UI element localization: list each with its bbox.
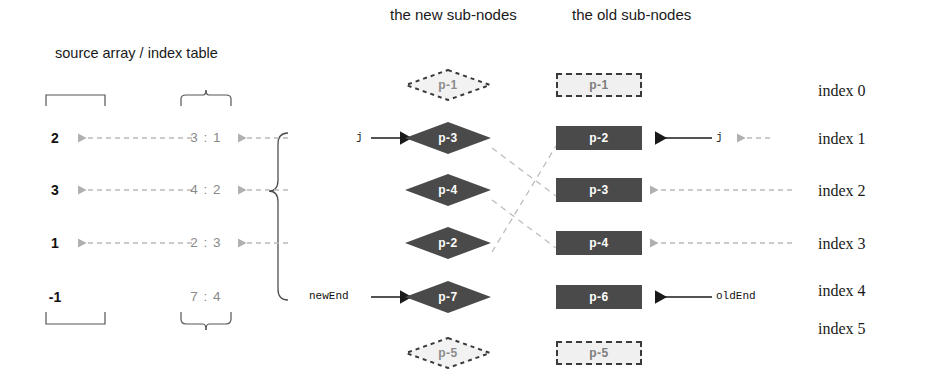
- source-array-value: 2: [35, 130, 75, 146]
- diamond-shape: [405, 281, 491, 313]
- index-table-entry: 4 : 2: [171, 182, 241, 197]
- old-node-p1[interactable]: p-1: [556, 73, 642, 97]
- index-group-brace: [269, 133, 288, 300]
- index-label-3: index 3: [818, 235, 866, 253]
- old-node-p5[interactable]: p-5: [556, 341, 642, 365]
- new-node-p2[interactable]: p-2: [405, 227, 491, 259]
- heading-source-index-table: source array / index table: [55, 45, 218, 61]
- old-node-p2[interactable]: p-2: [556, 126, 642, 150]
- pointer-label-new-j: j: [356, 131, 363, 143]
- index-table-brace-bottom: [181, 312, 231, 330]
- source-array-bracket: [46, 95, 105, 106]
- pointer-label-new-end: newEnd: [309, 290, 349, 302]
- heading-new-sub-nodes: the new sub-nodes: [390, 6, 517, 23]
- new-node-p7[interactable]: p-7: [405, 281, 491, 313]
- old-node-label: p-3: [556, 178, 642, 202]
- new-node-p4[interactable]: p-4: [405, 174, 491, 206]
- old-node-label: p-2: [556, 126, 642, 150]
- diamond-shape: [405, 122, 491, 154]
- diamond-shape: [405, 174, 491, 206]
- index-label-1: index 1: [818, 130, 866, 148]
- node-mapping-links: [492, 146, 556, 252]
- index-table-entry: 7 : 4: [171, 289, 241, 304]
- old-node-p3[interactable]: p-3: [556, 178, 642, 202]
- old-node-label: p-5: [558, 343, 640, 363]
- index-label-4: index 4: [818, 282, 866, 300]
- source-array-value: 1: [35, 235, 75, 251]
- ghost-diamond-outline: [405, 337, 491, 369]
- old-node-p4[interactable]: p-4: [556, 231, 642, 255]
- index-table-entry: 2 : 3: [171, 235, 241, 250]
- diamond-shape: [405, 227, 491, 259]
- index-table-entry: 3 : 1: [171, 130, 241, 145]
- index-label-2: index 2: [818, 182, 866, 200]
- pointer-arrows: [371, 138, 712, 297]
- pointer-label-old-end: oldEnd: [716, 290, 756, 302]
- source-array-value: -1: [35, 289, 75, 305]
- index-table-brace-top: [181, 90, 231, 106]
- new-node-p3[interactable]: p-3: [405, 122, 491, 154]
- old-node-label: p-6: [556, 285, 642, 309]
- index-label-5: index 5: [818, 320, 866, 338]
- ghost-diamond-outline: [405, 69, 491, 101]
- index-label-0: index 0: [818, 82, 866, 100]
- source-array-bracket-bottom: [46, 312, 105, 324]
- old-node-p6[interactable]: p-6: [556, 285, 642, 309]
- old-node-label: p-4: [556, 231, 642, 255]
- index-from-brace-arrows: [238, 138, 288, 243]
- new-node-p1[interactable]: p-1: [405, 69, 491, 101]
- pointer-label-old-j: j: [716, 131, 723, 143]
- old-node-feedback-lines: [650, 138, 792, 243]
- old-node-label: p-1: [558, 75, 640, 95]
- source-array-value: 3: [35, 182, 75, 198]
- diagram-canvas: the new sub-nodes the old sub-nodes sour…: [0, 0, 933, 373]
- heading-old-sub-nodes: the old sub-nodes: [572, 6, 691, 23]
- new-node-p5[interactable]: p-5: [405, 337, 491, 369]
